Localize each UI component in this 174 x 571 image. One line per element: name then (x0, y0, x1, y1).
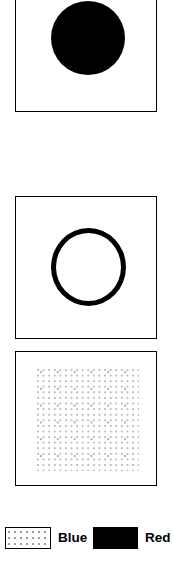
legend: Blue Red (0, 525, 174, 553)
panel-dot-matrix (15, 351, 157, 486)
bottom-clipped-text (0, 562, 174, 571)
legend-label-red: Red (145, 529, 171, 547)
legend-swatch-red (93, 527, 138, 549)
dot-matrix-fill (37, 369, 139, 471)
panel-ring-outline (15, 196, 157, 339)
ring-outline-shape (51, 228, 126, 306)
filled-disc-shape (51, 1, 125, 75)
legend-label-blue: Blue (58, 529, 87, 547)
panel-filled-disc (15, 0, 157, 112)
legend-swatch-blue (5, 527, 51, 549)
